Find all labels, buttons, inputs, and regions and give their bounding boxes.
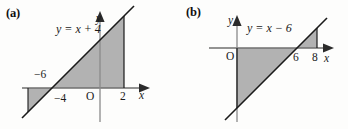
equation-label-b: y = x − 6 xyxy=(247,21,292,36)
y-axis-arrow-b xyxy=(232,15,241,26)
tick-label-b-8: 8 xyxy=(312,51,318,63)
figure-canvas: (a) y = x + 4 y x −6 −4 O 2 xyxy=(0,0,348,129)
tick-label-b-6: 6 xyxy=(293,51,299,63)
origin-label-b: O xyxy=(226,50,234,62)
panel-b-plot xyxy=(0,0,348,129)
y-axis-label-b: y xyxy=(228,14,233,26)
x-axis-label-b: x xyxy=(324,52,329,64)
